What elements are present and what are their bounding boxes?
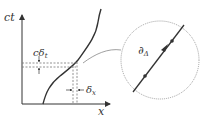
event-point-lower (143, 74, 147, 78)
y-axis-label: ct (4, 11, 15, 24)
magnified-inset: ∂Δ (121, 21, 199, 99)
space-interval-label: δx (86, 84, 96, 97)
spacetime-diagram: ct x cδt δx ∂Δ (0, 0, 203, 117)
event-point-upper (170, 39, 174, 43)
inset-worldline (133, 25, 184, 92)
x-axis-label: x (98, 105, 105, 117)
inset-connector (83, 50, 121, 63)
inset-circle (121, 21, 199, 99)
time-interval-label: cδt (33, 47, 48, 60)
inset-label: ∂Δ (138, 44, 149, 58)
